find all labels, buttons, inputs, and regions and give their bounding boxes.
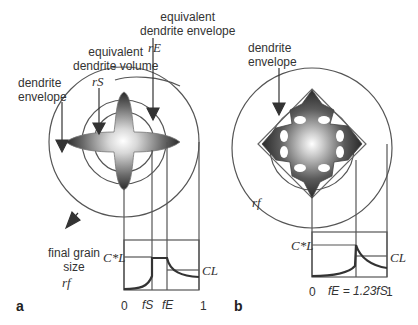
dendrite-envelope-label-a: dendrite envelope: [18, 76, 67, 104]
rS-symbol: rS: [92, 74, 104, 90]
tick-1-b: 1: [386, 285, 393, 299]
rf-symbol-b: rf: [252, 195, 261, 211]
tick-0-b: 0: [309, 285, 316, 299]
label-line: equivalent: [140, 10, 235, 24]
tick-fE-b: fE = 1.23fS: [328, 284, 388, 298]
label-line: envelope: [248, 55, 297, 69]
label-line: final grain: [48, 246, 100, 260]
cl-star-label-b: C*L: [291, 238, 313, 254]
cl-label-b: CL: [390, 250, 406, 266]
label-line: dendrite: [248, 41, 297, 55]
cl-label-a: CL: [202, 263, 218, 279]
label-line: dendrite: [18, 76, 67, 90]
tick-fS-a: fS: [142, 298, 153, 312]
equivalent-envelope-label: equivalent dendrite envelope: [140, 10, 235, 38]
plot-a: [124, 240, 199, 290]
figure: equivalent dendrite envelope rE equivale…: [0, 0, 418, 325]
label-line: dendrite envelope: [140, 24, 235, 38]
tick-1-a: 1: [200, 299, 207, 313]
equivalent-volume-label: equivalent dendrite volume: [73, 45, 158, 73]
label-line: dendrite volume: [73, 59, 158, 73]
label-line: envelope: [18, 90, 67, 104]
dendrite-a: [66, 92, 180, 190]
final-grain-label: final grain size: [48, 246, 100, 274]
tick-0-a: 0: [121, 299, 128, 313]
rf-symbol-a: rf: [62, 275, 71, 291]
label-line: equivalent: [73, 45, 158, 59]
cl-star-label-a: C*L: [103, 250, 125, 266]
panel-label-a: a: [16, 298, 24, 314]
label-line: size: [48, 260, 100, 274]
dendrite-envelope-label-b: dendrite envelope: [248, 41, 297, 69]
tick-fE-a: fE: [162, 298, 173, 312]
panel-label-b: b: [234, 298, 243, 314]
